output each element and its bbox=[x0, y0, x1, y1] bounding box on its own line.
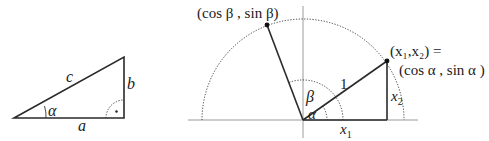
alpha-point-label-line1: (x₁,x₂) = bbox=[390, 43, 441, 60]
x1-label: x1 bbox=[339, 121, 352, 140]
right-angle-dot bbox=[115, 110, 117, 112]
triangle-shape bbox=[14, 57, 124, 118]
beta-angle-arc bbox=[289, 80, 343, 120]
alpha-point bbox=[385, 59, 390, 64]
opposite-side-label: b bbox=[127, 75, 135, 92]
x2-label: x2 bbox=[390, 88, 403, 107]
beta-point bbox=[265, 23, 270, 28]
alpha-point-label-line2: (cos α , sin α ) bbox=[399, 62, 485, 79]
right-angle-arc bbox=[106, 100, 124, 118]
beta-point-label: (cos β , sin β) bbox=[197, 5, 279, 22]
radius-label: 1 bbox=[340, 76, 348, 92]
beta-angle-label: β bbox=[305, 88, 314, 106]
right-triangle: c b a α bbox=[14, 57, 135, 134]
alpha-angle-label: α bbox=[308, 106, 317, 122]
beta-radius-line bbox=[267, 25, 303, 120]
alpha-angle-arc bbox=[323, 106, 327, 120]
alpha-angle-arc bbox=[45, 106, 47, 118]
trigonometry-figure: c b a α (cos β , sin β) (x₁,x₂) = (cos α… bbox=[0, 0, 489, 141]
x2-label-sub: 2 bbox=[398, 96, 403, 107]
alpha-angle-label: α bbox=[48, 102, 57, 119]
unit-circle-diagram: (cos β , sin β) (x₁,x₂) = (cos α , sin α… bbox=[188, 5, 485, 140]
adjacent-side-label: a bbox=[78, 117, 86, 134]
x1-label-sub: 1 bbox=[347, 129, 352, 140]
hypotenuse-label: c bbox=[66, 68, 73, 85]
